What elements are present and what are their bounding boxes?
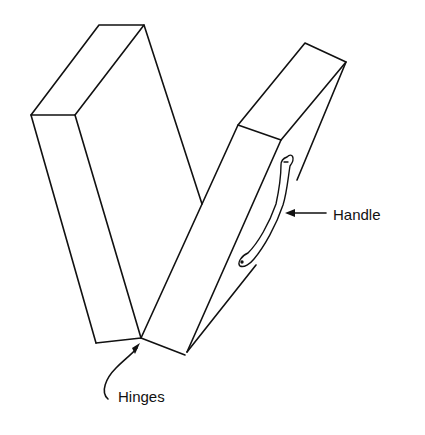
right-box-bottom-back-edge <box>187 265 256 352</box>
arrow-head-icon <box>285 209 295 217</box>
handle-arrow <box>285 209 326 217</box>
hinges-label: Hinges <box>118 389 165 404</box>
left-box-bottom-edge <box>96 338 141 343</box>
right-box-half <box>141 43 346 355</box>
handle-label: Handle <box>333 207 381 222</box>
left-box-back-edge <box>144 25 202 204</box>
handle-rivet-bottom <box>241 261 243 263</box>
left-box-top-face <box>31 25 144 115</box>
right-box-bottom-edge <box>141 338 185 355</box>
right-box-back-edge-upper <box>297 62 346 180</box>
right-box-front-edge <box>187 140 281 352</box>
left-box-outer-edge <box>31 115 96 343</box>
right-box-top-face <box>238 43 346 140</box>
left-box-half <box>31 25 202 343</box>
